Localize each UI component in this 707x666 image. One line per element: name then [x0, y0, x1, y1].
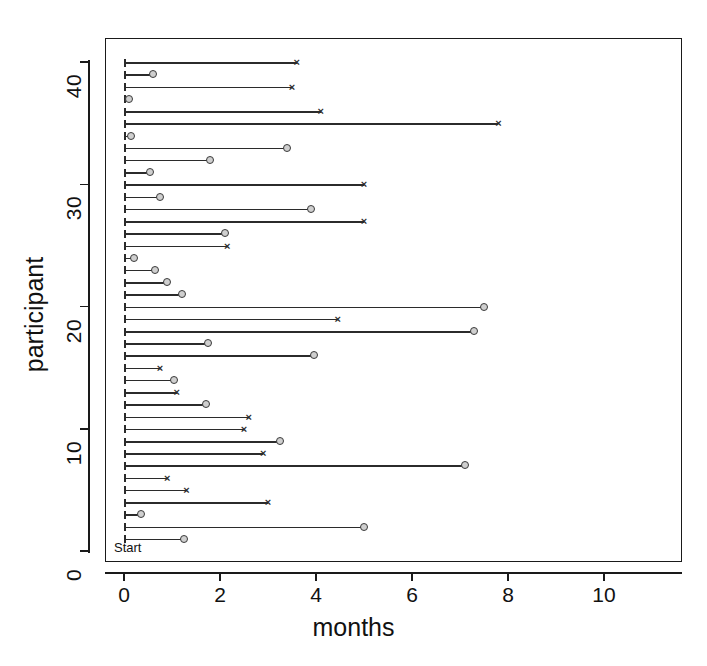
- participant-line: ×: [124, 417, 249, 418]
- participant-line: [124, 148, 287, 149]
- y-tick-label: 40: [62, 60, 86, 112]
- participant-line: [124, 465, 465, 466]
- participant-line: ×: [124, 502, 268, 503]
- x-tick: [315, 572, 317, 581]
- duration-segment: [124, 404, 206, 406]
- circle-endpoint-icon: [307, 205, 315, 213]
- duration-segment: [124, 502, 268, 504]
- participant-line: [124, 160, 210, 161]
- duration-segment: [124, 111, 321, 113]
- duration-segment: [124, 282, 167, 284]
- participant-line: [124, 258, 134, 259]
- cross-endpoint-icon: ×: [360, 217, 368, 225]
- cross-endpoint-icon: ×: [240, 425, 248, 433]
- duration-segment: [124, 429, 244, 431]
- participant-line: ×: [124, 429, 244, 430]
- circle-endpoint-icon: [130, 254, 138, 262]
- duration-segment: [124, 123, 498, 125]
- duration-segment: [124, 160, 210, 162]
- x-tick: [411, 572, 413, 581]
- circle-endpoint-icon: [360, 523, 368, 531]
- participant-line: [124, 343, 208, 344]
- cross-endpoint-icon: ×: [163, 474, 171, 482]
- participant-line: ×: [124, 111, 321, 112]
- duration-segment: [124, 233, 225, 235]
- participant-line: ×: [124, 221, 364, 222]
- participant-line: [124, 270, 155, 271]
- participant-line: [124, 380, 174, 381]
- cross-endpoint-icon: ×: [494, 119, 502, 127]
- participant-line: ×: [124, 184, 364, 185]
- duration-segment: [124, 441, 280, 443]
- duration-segment: [124, 246, 227, 248]
- participant-line: ×: [124, 123, 498, 124]
- duration-segment: [124, 417, 249, 419]
- cross-endpoint-icon: ×: [182, 486, 190, 494]
- x-tick-label: 10: [584, 583, 624, 607]
- duration-segment: [124, 184, 364, 186]
- duration-segment: [124, 62, 297, 64]
- duration-segment: [124, 465, 465, 467]
- participant-line: [124, 136, 131, 137]
- duration-segment: [124, 453, 263, 455]
- duration-segment: [124, 294, 182, 296]
- circle-endpoint-icon: [283, 144, 291, 152]
- circle-endpoint-icon: [480, 303, 488, 311]
- duration-segment: [124, 392, 177, 394]
- plot-area: [106, 39, 681, 561]
- plot-frame: [105, 38, 682, 562]
- participant-line: ×: [124, 62, 297, 63]
- duration-segment: [124, 490, 186, 492]
- circle-endpoint-icon: [156, 193, 164, 201]
- participant-line: ×: [124, 319, 338, 320]
- circle-endpoint-icon: [125, 95, 133, 103]
- cross-endpoint-icon: ×: [259, 449, 267, 457]
- cross-endpoint-icon: ×: [223, 242, 231, 250]
- duration-segment: [124, 87, 292, 89]
- circle-endpoint-icon: [202, 400, 210, 408]
- participant-line: [124, 527, 364, 528]
- participant-line: [124, 197, 160, 198]
- x-tick: [123, 572, 125, 581]
- duration-segment: [124, 478, 167, 480]
- x-tick: [603, 572, 605, 581]
- cross-endpoint-icon: ×: [173, 388, 181, 396]
- participant-line: [124, 294, 182, 295]
- y-axis-title: participant: [20, 195, 49, 435]
- duration-segment: [124, 368, 160, 370]
- participant-line: [124, 74, 153, 75]
- circle-endpoint-icon: [178, 290, 186, 298]
- participant-line: ×: [124, 453, 263, 454]
- duration-segment: [124, 319, 338, 321]
- start-annotation: Start: [114, 540, 141, 555]
- participant-line: ×: [124, 87, 292, 88]
- y-tick-label: 30: [62, 182, 86, 234]
- participant-line: ×: [124, 368, 160, 369]
- duration-segment: [124, 331, 474, 333]
- circle-endpoint-icon: [127, 132, 135, 140]
- cross-endpoint-icon: ×: [360, 180, 368, 188]
- participant-line: [124, 514, 141, 515]
- duration-segment: [124, 197, 160, 199]
- participant-line: [124, 282, 167, 283]
- cross-endpoint-icon: ×: [245, 413, 253, 421]
- y-tick-label: 0: [62, 549, 86, 601]
- cross-endpoint-icon: ×: [334, 315, 342, 323]
- circle-endpoint-icon: [180, 535, 188, 543]
- duration-segment: [124, 380, 174, 382]
- x-tick-label: 6: [392, 583, 432, 607]
- x-axis-title: months: [0, 613, 707, 642]
- participant-line: [124, 331, 474, 332]
- cross-endpoint-icon: ×: [293, 58, 301, 66]
- participant-line: ×: [124, 478, 167, 479]
- duration-segment: [124, 527, 364, 529]
- x-tick: [219, 572, 221, 581]
- y-tick-label: 10: [62, 427, 86, 479]
- x-tick-label: 4: [296, 583, 336, 607]
- x-tick-label: 0: [104, 583, 144, 607]
- y-tick-label: 20: [62, 305, 86, 357]
- duration-segment: [124, 307, 484, 309]
- participant-line: [124, 99, 129, 100]
- participant-line: [124, 209, 311, 210]
- cross-endpoint-icon: ×: [317, 107, 325, 115]
